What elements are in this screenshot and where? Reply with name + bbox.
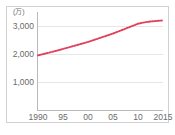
- chart-card: (万) 1,0002,0003,000 1990950005102015: [0, 0, 175, 135]
- plot-area: [38, 12, 163, 110]
- y-axis-tick-label: 3,000: [8, 22, 34, 30]
- x-axis-tick-label: 05: [108, 112, 117, 122]
- x-axis-tick-labels: 1990950005102015: [0, 112, 175, 126]
- data-series-line: [38, 12, 163, 110]
- x-axis-tick-label: 00: [83, 112, 92, 122]
- y-axis-tick-label: 1,000: [8, 78, 34, 86]
- x-axis-line: [37, 110, 163, 111]
- y-axis-tick-label: 2,000: [8, 50, 34, 58]
- x-axis-tick-label: 1990: [29, 112, 48, 122]
- x-axis-tick-label: 10: [133, 112, 142, 122]
- series-polyline: [38, 20, 163, 55]
- x-axis-tick-label: 2015: [154, 112, 173, 122]
- x-axis-tick-label: 95: [58, 112, 67, 122]
